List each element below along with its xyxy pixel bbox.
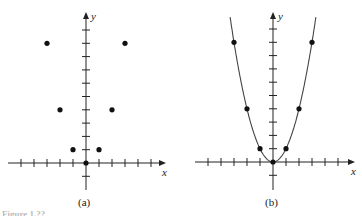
figure-canvas: xyxy	[0, 0, 362, 216]
panel-a-caption: (a)	[78, 196, 90, 208]
y-axis-label: y	[277, 10, 283, 22]
data-point	[96, 147, 101, 152]
data-point	[244, 106, 249, 111]
data-point	[44, 41, 49, 46]
panel-b-caption: (b)	[265, 196, 278, 208]
figure-caption-partial: Figure 1.??	[2, 209, 45, 216]
data-point	[309, 40, 314, 45]
data-point	[270, 159, 275, 164]
x-axis-label: x	[161, 166, 167, 178]
data-point	[83, 160, 88, 165]
data-point	[283, 146, 288, 151]
data-point	[257, 146, 262, 151]
data-point	[109, 107, 114, 112]
data-point	[57, 107, 62, 112]
x-axis-label: x	[350, 165, 356, 177]
y-axis-arrow-icon	[83, 12, 89, 19]
y-axis-label: y	[90, 10, 96, 22]
data-point	[122, 41, 127, 46]
data-point	[70, 147, 75, 152]
y-axis-arrow-icon	[270, 12, 276, 19]
data-point	[231, 40, 236, 45]
data-point	[296, 106, 301, 111]
